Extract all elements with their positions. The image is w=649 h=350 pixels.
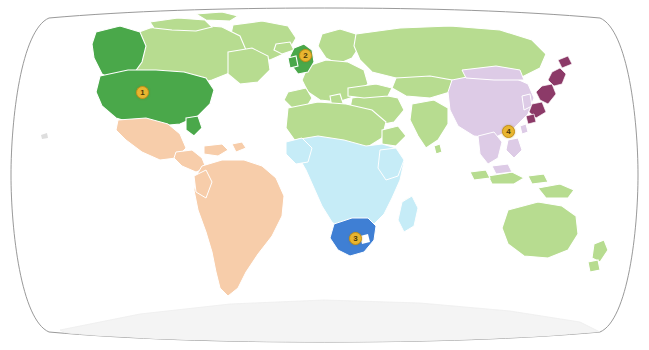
marker-usa-pin[interactable]: 1 [136,86,149,99]
world-map-container[interactable]: 1 2 3 4 [0,0,649,350]
world-map-graphic [0,0,649,350]
marker-philippines-pin[interactable]: 4 [502,125,515,138]
marker-uk-pin[interactable]: 2 [299,49,312,62]
marker-south-africa-pin[interactable]: 3 [349,232,362,245]
